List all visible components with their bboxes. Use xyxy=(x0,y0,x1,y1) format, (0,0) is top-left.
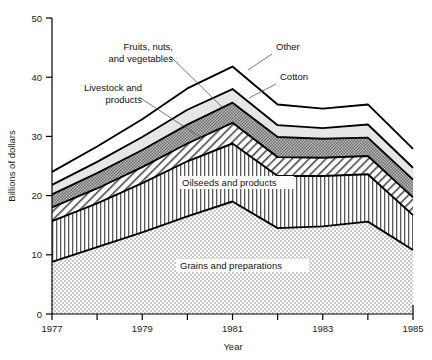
annotation-oilseeds-and-products: Oilseeds and products xyxy=(178,176,294,189)
annotation-grains-and-preparations: Grains and preparations xyxy=(176,259,309,272)
x-tick-label-1977: 1977 xyxy=(41,323,62,334)
annotation-fruits-line2: and vegetables xyxy=(109,53,174,64)
y-tick-label-20: 20 xyxy=(31,190,42,201)
x-ticks-group: 19771979198119831985 xyxy=(41,314,423,334)
y-tick-label-10: 10 xyxy=(31,249,42,260)
leader-other xyxy=(248,54,272,70)
x-tick-label-1981: 1981 xyxy=(222,323,243,334)
y-axis-title: Billions of dollars xyxy=(6,130,17,202)
annotation-livestock-line2: products xyxy=(106,94,143,105)
annotation-grains-text: Grains and preparations xyxy=(180,260,282,271)
stacked-area-chart: 0102030405019771979198119831985 Fruits, … xyxy=(0,0,432,360)
x-tick-label-1983: 1983 xyxy=(312,323,333,334)
x-tick-label-1985: 1985 xyxy=(402,323,423,334)
annotation-livestock-and-products: Livestock and products xyxy=(84,82,142,105)
annotation-livestock-line1: Livestock and xyxy=(84,82,142,93)
annotation-fruits-nuts-vegetables: Fruits, nuts, and vegetables xyxy=(109,41,174,64)
y-tick-label-50: 50 xyxy=(31,13,42,24)
chart-canvas: 0102030405019771979198119831985 Fruits, … xyxy=(0,0,432,360)
y-ticks-group: 01020304050 xyxy=(31,13,52,320)
y-tick-label-0: 0 xyxy=(37,309,42,320)
x-tick-label-1979: 1979 xyxy=(132,323,153,334)
annotation-fruits-line1: Fruits, nuts, xyxy=(123,41,173,52)
annotation-cotton: Cotton xyxy=(280,71,308,82)
annotation-oilseeds-text: Oilseeds and products xyxy=(182,177,277,188)
y-tick-label-40: 40 xyxy=(31,72,42,83)
x-axis-title: Year xyxy=(223,341,242,352)
annotation-other: Other xyxy=(276,41,300,52)
y-tick-label-30: 30 xyxy=(31,131,42,142)
